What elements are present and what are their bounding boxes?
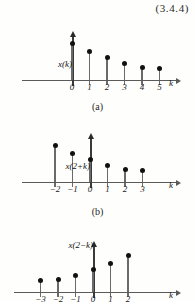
plot-c-stem: [92, 270, 93, 292]
plot-a-y-axis-arrow: [70, 31, 76, 37]
plot-c-tick-label: −1: [70, 294, 81, 304]
plot-c-x-axis-label: k: [169, 290, 173, 300]
plot-c-stem-dot: [91, 267, 96, 272]
plot-c-tick-label: 2: [126, 294, 131, 304]
plot-a-tick-label: 3: [122, 82, 127, 92]
plot-c-stem-dot: [126, 253, 131, 258]
plot-a-tick-label: 4: [140, 82, 145, 92]
plot-a-tick-label: 0: [70, 82, 75, 92]
plot-a-caption: (a): [0, 101, 195, 112]
plot-b-x-axis: [22, 182, 176, 183]
plot-c-stem: [127, 255, 128, 292]
plot-b-stem: [54, 145, 55, 182]
plot-c-tick-label: −3: [35, 294, 46, 304]
plot-a-stem-dot: [157, 66, 162, 71]
plot-b-y-axis-label: x(2+k): [65, 161, 90, 171]
plot-c-stem-dot: [73, 273, 78, 278]
plot-c-stem-dot: [38, 278, 43, 283]
plot-b-tick-label: −2: [50, 184, 61, 194]
plot-c-y-axis-label: x(2−k): [68, 240, 93, 250]
plot-c-x-axis-arrow: [176, 290, 181, 296]
plot-b-stem-dot: [105, 163, 110, 168]
plot-b-stem-dot: [70, 151, 75, 156]
plot-a-stem-dot: [87, 49, 92, 54]
plot-a-tick-label: 5: [157, 82, 162, 92]
equation-number: (3.4.4): [155, 2, 189, 14]
plot-c-canvas: −3−2−1012: [0, 232, 195, 304]
plot-a-x-axis-label: k: [169, 78, 173, 88]
plot-a-x-axis: [22, 80, 176, 81]
plot-b-stem-dot: [53, 143, 58, 148]
plot-a-tick-label: 2: [105, 82, 110, 92]
stem-plot-a: 012345 x(k) k: [0, 28, 195, 100]
plot-c-tick-label: 0: [91, 294, 96, 304]
plot-c-stem: [110, 263, 111, 292]
plot-a-tick-label: 1: [87, 82, 92, 92]
plot-b-x-axis-arrow: [176, 180, 181, 186]
plot-a-stem-dot: [70, 41, 75, 46]
plot-b-x-axis-label: k: [169, 180, 173, 190]
plot-a-stem-dot: [105, 55, 110, 60]
plot-b-tick-label: 2: [123, 184, 128, 194]
stem-plot-c: −3−2−1012 x(2−k) k: [0, 232, 195, 304]
plot-b-tick-label: 0: [88, 184, 93, 194]
plot-c-tick-label: −2: [53, 294, 64, 304]
plot-c-stem-dot: [108, 261, 113, 266]
plot-a-stem: [89, 51, 90, 80]
plot-a-canvas: 012345: [0, 28, 195, 100]
plot-a-stem: [106, 58, 107, 80]
plot-b-tick-label: −1: [67, 184, 78, 194]
plot-a-y-axis-label: x(k): [58, 59, 72, 69]
plot-a-x-axis-arrow: [176, 78, 181, 84]
plot-b-stem-dot: [123, 167, 128, 172]
plot-b-tick-label: 3: [140, 184, 145, 194]
plot-c-stem-dot: [56, 277, 61, 282]
plot-a-stem-dot: [140, 65, 145, 70]
plot-b-y-axis-arrow: [88, 133, 94, 139]
plot-b-stem-dot: [140, 168, 145, 173]
plot-b-tick-label: 1: [105, 184, 110, 194]
plot-b-caption: (b): [0, 206, 195, 217]
plot-c-tick-label: 1: [108, 294, 113, 304]
stem-plot-b: −2−10123 x(2+k) k: [0, 130, 195, 202]
plot-b-canvas: −2−10123: [0, 130, 195, 202]
plot-a-stem-dot: [122, 61, 127, 66]
